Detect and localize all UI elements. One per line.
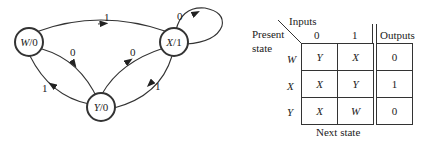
edge-x-y xyxy=(114,56,172,108)
svg-text:X/1: X/1 xyxy=(165,36,181,48)
table-row: X W 0 xyxy=(302,98,413,125)
outputs-header: Outputs xyxy=(380,30,415,41)
next-state-cell: X xyxy=(302,71,338,98)
row-label-x: X xyxy=(287,81,294,92)
inputs-label: Inputs xyxy=(289,16,317,27)
next-state-cell: Y xyxy=(302,44,338,71)
header-double-rule xyxy=(372,24,377,43)
output-cell: 1 xyxy=(375,71,413,98)
row-label-y: Y xyxy=(287,107,293,118)
input-1-header: 1 xyxy=(352,30,358,41)
svg-text:0: 0 xyxy=(130,46,136,58)
state-table: Y X 0 X Y 1 X W 0 xyxy=(301,43,413,125)
present-label: Present xyxy=(252,29,284,40)
svg-text:Y/0: Y/0 xyxy=(94,101,109,113)
next-state-cell: W xyxy=(338,98,376,125)
row-label-w: W xyxy=(287,54,296,65)
svg-text:0: 0 xyxy=(177,10,183,22)
svg-text:0: 0 xyxy=(70,46,76,58)
next-state-label: Next state xyxy=(316,127,360,138)
next-state-cell: Y xyxy=(338,71,376,98)
svg-text:W/0: W/0 xyxy=(20,36,38,48)
table-row: Y X 0 xyxy=(302,44,413,71)
next-state-cell: X xyxy=(302,98,338,125)
svg-text:1: 1 xyxy=(104,11,110,23)
svg-text:1: 1 xyxy=(155,80,161,92)
state-label: state xyxy=(252,43,272,54)
edge-y-w xyxy=(30,56,89,104)
edge-w-x xyxy=(36,20,168,32)
table-row: X Y 1 xyxy=(302,71,413,98)
input-0-header: 0 xyxy=(314,30,320,41)
output-cell: 0 xyxy=(375,44,413,71)
svg-text:1: 1 xyxy=(42,82,48,94)
next-state-cell: X xyxy=(338,44,376,71)
output-cell: 0 xyxy=(375,98,413,125)
